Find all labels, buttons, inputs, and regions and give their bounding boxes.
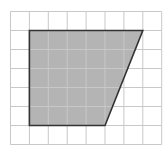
grid-diagram (0, 0, 167, 153)
grid-canvas (0, 0, 167, 153)
